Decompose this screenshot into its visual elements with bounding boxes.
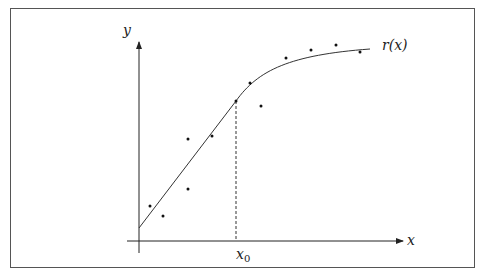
y-axis-label: y xyxy=(122,22,132,38)
x0-subscript: 0 xyxy=(244,253,250,264)
x0-label: x0 xyxy=(236,246,250,264)
data-points xyxy=(149,44,362,218)
regression-curve xyxy=(139,49,370,228)
x-axis-label: x xyxy=(407,232,415,248)
curve-label: r(x) xyxy=(382,37,408,53)
regression-diagram: y x r(x) x0 xyxy=(0,0,483,276)
